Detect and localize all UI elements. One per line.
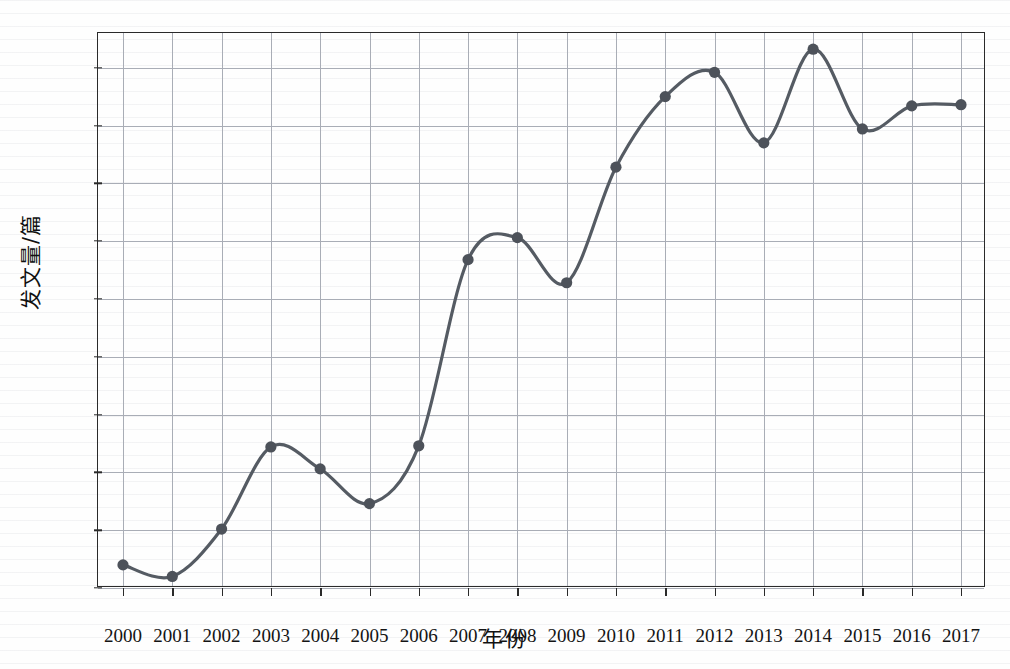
data-point-marker: 2010: 36.4 xyxy=(610,162,621,173)
data-point-marker: 2009: 26.4 xyxy=(561,277,572,288)
clipped-figure-title: 图1 中国知网相关文献年度发文量 xyxy=(6,0,221,7)
plot-area: 051015202530354045 200020012002200320042… xyxy=(97,32,985,587)
x-tick-mark xyxy=(862,588,863,596)
x-tick-mark xyxy=(567,588,568,596)
x-tick-mark xyxy=(517,588,518,596)
data-point-marker: 2003: 12.2 xyxy=(265,441,276,452)
series-line xyxy=(123,49,961,578)
x-tick-mark xyxy=(172,588,173,596)
data-point-marker: 2011: 42.5 xyxy=(660,91,671,102)
data-series-layer: 2000: 22001: 12002: 5.12003: 12.22004: 1… xyxy=(98,33,986,588)
x-axis-title: 年份 xyxy=(0,622,1010,652)
x-tick-mark xyxy=(370,588,371,596)
x-tick-mark xyxy=(665,588,666,596)
data-point-marker: 2013: 38.5 xyxy=(758,137,769,148)
data-point-marker: 2015: 39.7 xyxy=(857,123,868,134)
x-tick-mark xyxy=(715,588,716,596)
chart-figure: 图1 中国知网相关文献年度发文量 发文量/篇 年份 05101520253035… xyxy=(0,0,1010,669)
x-tick-mark xyxy=(912,588,913,596)
y-axis-title: 发文量/篇 xyxy=(14,214,44,310)
x-tick-mark xyxy=(419,588,420,596)
data-point-marker: 2012: 44.6 xyxy=(709,67,720,78)
x-tick-mark xyxy=(468,588,469,596)
x-tick-mark xyxy=(813,588,814,596)
x-tick-mark xyxy=(320,588,321,596)
x-tick-mark xyxy=(616,588,617,596)
x-tick-mark xyxy=(222,588,223,596)
data-point-marker: 2016: 41.7 xyxy=(906,100,917,111)
data-point-marker: 2004: 10.3 xyxy=(315,463,326,474)
data-point-marker: 2014: 46.6 xyxy=(808,44,819,55)
data-point-marker: 2002: 5.1 xyxy=(216,523,227,534)
data-point-marker: 2005: 7.3 xyxy=(364,498,375,509)
data-point-marker: 2001: 1 xyxy=(167,571,178,582)
data-point-marker: 2017: 41.8 xyxy=(955,99,966,110)
data-point-marker: 2000: 2 xyxy=(117,559,128,570)
gridline-horizontal xyxy=(98,588,984,589)
x-tick-mark xyxy=(123,588,124,596)
x-tick-mark xyxy=(961,588,962,596)
x-tick-mark xyxy=(764,588,765,596)
data-point-marker: 2007: 28.4 xyxy=(462,254,473,265)
x-tick-mark xyxy=(271,588,272,596)
data-point-marker: 2008: 30.3 xyxy=(512,232,523,243)
data-point-marker: 2006: 12.3 xyxy=(413,440,424,451)
